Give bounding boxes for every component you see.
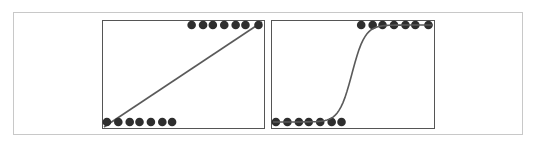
data-point [125,118,134,127]
data-point [168,118,177,127]
data-point [241,21,250,30]
data-point [158,118,167,127]
data-point [135,118,144,127]
data-point [114,118,123,127]
plots-overlay [0,0,537,142]
data-point [337,118,346,127]
data-point [199,21,208,30]
data-point [187,21,196,30]
sigmoid-plot [272,21,433,127]
data-point [209,21,218,30]
data-point [231,21,240,30]
data-point [103,118,112,127]
data-point [254,21,263,30]
linear-fit-line [104,22,262,127]
data-point [357,21,366,30]
data-point [147,118,156,127]
sigmoid-fit-curve [273,25,433,122]
data-point [220,21,229,30]
linear-plot [103,21,263,127]
class-0-points [103,118,177,127]
class-1-points [187,21,262,30]
